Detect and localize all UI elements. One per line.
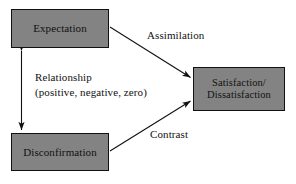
node-satisfaction[interactable]: Satisfaction/ Dissatisfaction	[193, 67, 285, 111]
node-disconfirmation-label: Disconfirmation	[20, 146, 100, 158]
node-satisfaction-label-line-2: Dissatisfaction	[207, 89, 271, 101]
node-disconfirmation[interactable]: Disconfirmation	[11, 133, 109, 171]
edge-label-relationship-line-2: (positive, negative, zero)	[35, 85, 147, 100]
edge-label-relationship-line-1: Relationship	[35, 70, 147, 85]
edge-contrast-line	[110, 101, 191, 151]
edge-label-assimilation: Assimilation	[147, 29, 204, 41]
node-expectation[interactable]: Expectation	[11, 9, 109, 48]
edge-label-relationship: Relationship (positive, negative, zero)	[35, 70, 147, 99]
edge-label-contrast: Contrast	[150, 128, 188, 140]
node-satisfaction-label-line-1: Satisfaction/	[207, 77, 271, 89]
node-satisfaction-label: Satisfaction/ Dissatisfaction	[204, 77, 274, 101]
diagram-canvas: Expectation Disconfirmation Satisfaction…	[0, 0, 296, 184]
node-expectation-label: Expectation	[30, 22, 90, 34]
